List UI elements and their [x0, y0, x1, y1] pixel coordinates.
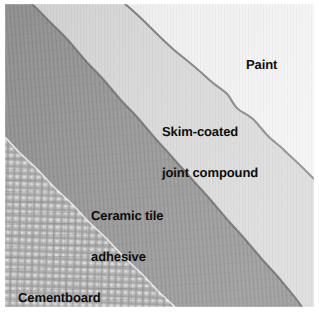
illustration-plate	[5, 4, 314, 307]
layers-illustration: Paint Skim-coated joint compound Ceramic…	[0, 0, 319, 321]
layer-stack-svg	[5, 4, 314, 307]
